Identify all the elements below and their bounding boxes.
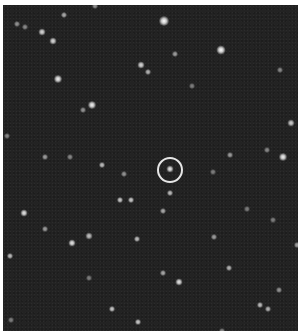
star [69, 240, 76, 247]
star [244, 206, 250, 212]
star [277, 67, 283, 73]
star [22, 24, 28, 30]
star [61, 12, 67, 18]
star [176, 279, 183, 286]
star [121, 171, 127, 177]
star [42, 154, 48, 160]
star [276, 287, 282, 293]
star [8, 317, 14, 323]
star [138, 62, 145, 69]
star [128, 197, 134, 203]
star [288, 120, 295, 127]
star [226, 265, 232, 271]
star [210, 169, 216, 175]
star [279, 153, 287, 161]
star [21, 210, 28, 217]
star [264, 147, 270, 153]
star [86, 275, 92, 281]
star [42, 226, 48, 232]
star [167, 190, 173, 196]
star [50, 38, 57, 45]
star [294, 242, 298, 248]
star [265, 306, 271, 312]
star [172, 51, 178, 57]
star [109, 306, 115, 312]
star [145, 69, 151, 75]
star [117, 197, 123, 203]
star [86, 233, 93, 240]
target-circle-marker [157, 157, 183, 183]
star [54, 75, 62, 83]
star [14, 21, 20, 27]
star [80, 107, 86, 113]
star [189, 83, 195, 89]
star [270, 217, 276, 223]
star [134, 236, 140, 242]
star [7, 253, 13, 259]
star [160, 270, 166, 276]
star [99, 162, 105, 168]
star [88, 101, 96, 109]
star-field-image [3, 5, 298, 331]
star [211, 234, 217, 240]
star [217, 46, 226, 55]
star [159, 16, 169, 26]
star [227, 152, 233, 158]
star [67, 154, 73, 160]
star [160, 208, 166, 214]
star [257, 302, 263, 308]
star [39, 29, 46, 36]
star [219, 328, 225, 331]
star [92, 5, 98, 9]
star [135, 319, 141, 325]
image-subject: star field [0, 0, 1, 1]
star [4, 133, 10, 139]
